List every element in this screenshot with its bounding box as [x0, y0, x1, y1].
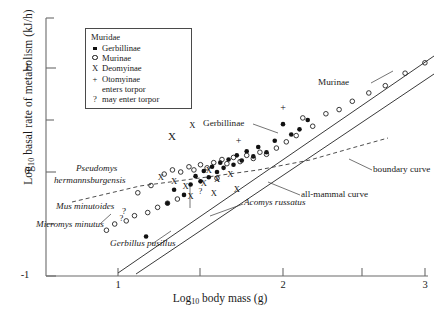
data-point-murinae [225, 161, 230, 166]
data-point-gerbillinae [182, 193, 187, 198]
plot-canvas: XXXXXXXXXXX++?? [0, 0, 440, 319]
data-point-gerbillinae [231, 162, 236, 167]
legend-label: may enter torpor [102, 94, 159, 104]
plus-marker-icon: + [91, 74, 99, 84]
annotation-lone-x-marker: X [168, 130, 176, 142]
data-point-murinae [132, 213, 137, 218]
annotation-all-mammal-curve: all-mammal curve [301, 189, 368, 199]
data-point-gerbillinae [281, 122, 286, 127]
data-point-murinae [350, 99, 355, 104]
annotation-mus-minutoides: Mus minutoides [56, 201, 114, 211]
data-point-murinae [104, 228, 109, 233]
data-point-gerbillinae [193, 174, 198, 179]
legend-item-murinae: Murinae [91, 53, 187, 63]
annotation-micromys-minutus: Micromys minutus [36, 219, 104, 229]
data-point-gerbillinae [206, 175, 211, 180]
data-point-murinae [301, 116, 306, 121]
annotation-pseudomys-line1: Pseudomys [76, 163, 117, 173]
data-point-murinae [124, 219, 129, 224]
data-point-gerbillinae [256, 145, 261, 150]
annotation-acomys-russatus: Acomys russatus [244, 197, 306, 207]
data-point-may-enter-torpor: ? [199, 186, 203, 196]
data-point-murinae [367, 91, 372, 96]
data-point-murinae [231, 155, 236, 160]
legend-label: Otomyinae [102, 74, 140, 84]
data-point-deomyinae: X [158, 172, 164, 182]
data-point-murinae [274, 146, 279, 151]
data-point-murinae [383, 83, 388, 88]
y-tick-label-neg1: -1 [12, 269, 38, 280]
data-point-gerbillinae [221, 166, 226, 171]
data-point-murinae [403, 71, 408, 76]
data-point-gerbillinae [172, 187, 177, 192]
legend-box: Muridae Gerbillinae Murinae X Deomyinae … [85, 28, 192, 109]
data-point-deomyinae: X [206, 165, 212, 175]
data-point-deomyinae: X [211, 188, 217, 198]
data-point-deomyinae: X [171, 176, 177, 186]
x-axis-ticks [118, 268, 425, 276]
y-tick-label-1: 1 [16, 61, 38, 72]
figure-metabolism-vs-body-mass: XXXXXXXXXXX++?? Log10 basal rate of meta… [0, 0, 440, 319]
legend-label: Murinae [102, 53, 131, 63]
data-point-murinae [192, 168, 197, 173]
data-point-deomyinae: X [183, 181, 189, 191]
legend-item-gerbillinae: Gerbillinae [91, 43, 187, 53]
data-point-murinae [211, 160, 216, 165]
annotation-murinae: Murinae [318, 77, 349, 87]
data-point-murinae [284, 140, 289, 145]
x-tick-label-2: 2 [273, 279, 293, 290]
x-tick-label-1: 1 [108, 279, 128, 290]
data-point-otomyinae: + [236, 135, 242, 146]
y-axis-title: Log10 basal rate of metabolism (kJ/h) [22, 0, 36, 222]
data-point-murinae [337, 107, 342, 112]
data-point-murinae [155, 205, 160, 210]
legend-label: Deomyinae [102, 63, 142, 73]
data-point-gerbillinae [289, 132, 294, 137]
annotation-pseudomys-line2: hermannsburgensis [54, 175, 126, 185]
legend-label: Gerbillinae [102, 43, 141, 53]
data-point-gerbillinae [272, 139, 277, 144]
annotation-question-1: ? [122, 206, 126, 216]
data-point-deomyinae: X [214, 174, 220, 184]
data-point-otomyinae: + [280, 102, 286, 113]
data-point-murinae [175, 197, 180, 202]
data-point-murinae [310, 124, 315, 129]
x-axis-title: Log10 body mass (g) [0, 292, 440, 306]
data-point-gerbillinae [297, 127, 302, 132]
data-point-murinae [244, 153, 249, 158]
data-point-deomyinae: X [227, 169, 233, 179]
data-point-murinae [149, 183, 154, 188]
open-circle-icon [91, 53, 99, 63]
data-point-murinae [145, 210, 150, 215]
data-point-murinae [170, 168, 175, 173]
data-point-murinae [294, 133, 299, 138]
data-point-murinae [258, 150, 263, 155]
legend-title: Muridae [91, 32, 187, 42]
data-point-gerbillinae [188, 182, 193, 187]
legend-item-otomyinae: + Otomyinae [91, 74, 187, 84]
data-point-murinae [198, 162, 203, 167]
data-point-gerbillinae [305, 118, 310, 123]
legend-item-deomyinae: X Deomyinae [91, 63, 187, 73]
legend-item-may-enter-torpor: ? may enter torpor [91, 94, 187, 104]
annotation-gerbillinae: Gerbillinae [203, 118, 244, 128]
y-axis-ticks [46, 18, 56, 276]
legend-note-enters-torpor: enters torpor [91, 84, 187, 94]
y-tick-label-0: 0 [16, 165, 38, 176]
annotation-boundary-curve: boundary curve [373, 164, 430, 174]
annotation-gerbillus-pusillus: Gerbillus pusillus [110, 238, 176, 248]
data-point-murinae [112, 222, 117, 227]
x-marker-icon: X [91, 63, 99, 73]
data-point-deomyinae: X [189, 120, 195, 130]
data-point-murinae [136, 191, 141, 196]
data-point-deomyinae: X [188, 191, 194, 201]
x-tick-label-3: 3 [415, 279, 435, 290]
filled-circle-icon [91, 43, 99, 53]
question-marker-icon: ? [91, 94, 99, 104]
data-point-murinae [187, 165, 192, 170]
data-point-murinae [178, 170, 183, 175]
data-point-deomyinae: X [234, 184, 240, 194]
data-point-murinae [324, 111, 329, 116]
